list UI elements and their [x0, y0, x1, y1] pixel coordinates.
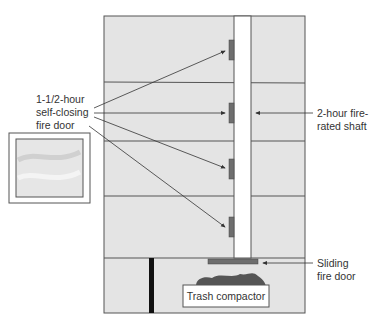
basement-wall [149, 258, 154, 313]
diagram-canvas: Trash compactor 1-1/2-hour self-closing … [0, 0, 374, 326]
shaft-label-line2: rated shaft [317, 120, 367, 132]
fire-door [229, 217, 234, 237]
fire-door [229, 40, 234, 60]
fire-door-label-line1: 1-1/2-hour [36, 93, 85, 105]
fire-door [229, 159, 234, 179]
sliding-fire-door [208, 259, 258, 264]
sliding-door-label-line2: fire door [317, 270, 356, 282]
building-outline [104, 16, 305, 313]
sliding-door-label-line1: Sliding [317, 257, 349, 269]
fire-door-label-line2: self-closing [36, 106, 89, 118]
fire-door [229, 103, 234, 123]
trash-compactor-label: Trash compactor [187, 290, 266, 302]
shaft-label-line1: 2-hour fire- [317, 107, 369, 119]
fire-door-label-line3: fire door [36, 119, 75, 131]
inset-image [16, 139, 83, 197]
fire-rated-shaft [234, 16, 251, 258]
